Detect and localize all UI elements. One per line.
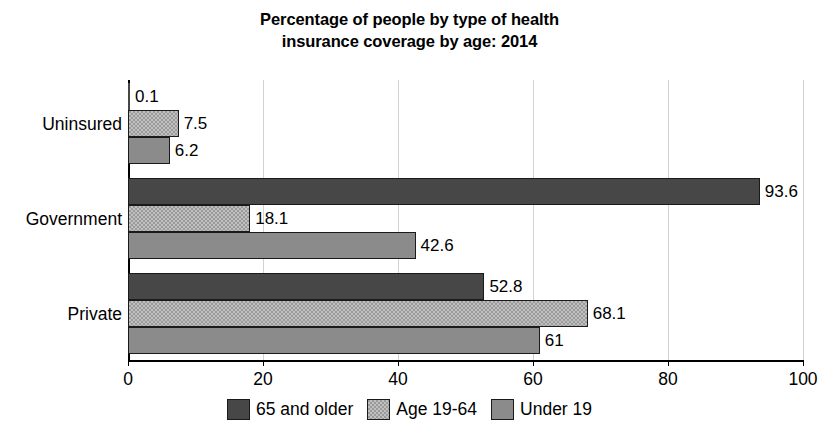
bar-value-label: 18.1 bbox=[255, 205, 288, 232]
bar-value-label: 93.6 bbox=[765, 178, 798, 205]
bar-value-label: 52.8 bbox=[489, 273, 522, 300]
bar bbox=[128, 137, 170, 164]
bar bbox=[128, 83, 130, 110]
category-label: Private bbox=[0, 304, 122, 324]
x-tick-label-40: 40 bbox=[388, 368, 407, 390]
bar bbox=[128, 205, 250, 232]
bar-value-label: 7.5 bbox=[184, 110, 208, 137]
legend-item: 65 and older bbox=[227, 398, 353, 420]
x-tick-100 bbox=[803, 360, 804, 366]
legend: 65 and olderAge 19-64Under 19 bbox=[0, 398, 819, 420]
bar-value-label: 68.1 bbox=[593, 300, 626, 327]
x-tick-80 bbox=[668, 360, 669, 366]
legend-swatch-icon bbox=[367, 399, 390, 420]
x-tick-label-0: 0 bbox=[123, 368, 133, 390]
bar bbox=[128, 273, 484, 300]
legend-item: Under 19 bbox=[491, 398, 592, 420]
category-label: Uninsured bbox=[0, 114, 122, 134]
x-tick-20 bbox=[263, 360, 264, 366]
bar bbox=[128, 300, 588, 327]
plot-area: 0.17.56.293.618.142.652.868.161 bbox=[128, 80, 803, 360]
chart-title: Percentage of people by type of health i… bbox=[0, 8, 819, 52]
x-tick-40 bbox=[398, 360, 399, 366]
bar bbox=[128, 178, 760, 205]
bar-value-label: 61 bbox=[545, 327, 564, 354]
x-tick-0 bbox=[128, 360, 129, 366]
bar-chart: Percentage of people by type of health i… bbox=[0, 0, 819, 434]
bar bbox=[128, 110, 179, 137]
category-label: Government bbox=[0, 209, 122, 229]
bar bbox=[128, 232, 416, 259]
x-tick-label-20: 20 bbox=[253, 368, 272, 390]
bar-value-label: 6.2 bbox=[175, 137, 199, 164]
x-tick-label-60: 60 bbox=[523, 368, 542, 390]
legend-label: 65 and older bbox=[256, 398, 353, 420]
x-axis-line bbox=[128, 360, 804, 362]
legend-swatch-icon bbox=[491, 399, 514, 420]
legend-label: Under 19 bbox=[520, 398, 592, 420]
bar-value-label: 42.6 bbox=[421, 232, 454, 259]
chart-title-line-1: Percentage of people by type of health bbox=[0, 8, 819, 30]
x-tick-label-80: 80 bbox=[658, 368, 677, 390]
x-tick-label-100: 100 bbox=[788, 368, 817, 390]
legend-label: Age 19-64 bbox=[396, 398, 477, 420]
x-tick-60 bbox=[533, 360, 534, 366]
bar bbox=[128, 327, 540, 354]
gridline-100 bbox=[803, 80, 804, 360]
bar-value-label: 0.1 bbox=[135, 83, 159, 110]
legend-swatch-icon bbox=[227, 399, 250, 420]
legend-item: Age 19-64 bbox=[367, 398, 477, 420]
chart-title-line-2: insurance coverage by age: 2014 bbox=[0, 30, 819, 52]
category-axis-labels: UninsuredGovernmentPrivate bbox=[0, 80, 122, 361]
